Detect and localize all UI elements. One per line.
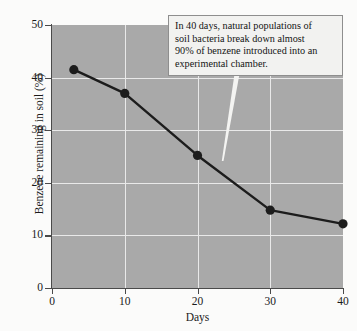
- y-tick-label-0: 0: [13, 282, 43, 294]
- x-tick-mark-0: [52, 288, 53, 294]
- y-tick-mark-10: [45, 235, 52, 236]
- annotation-line-4: experimental chamber.: [175, 58, 336, 71]
- x-tick-label-0: 0: [37, 296, 67, 308]
- x-tick-mark-20: [198, 288, 199, 294]
- y-tick-mark-30: [45, 130, 52, 131]
- annotation-line-3: 90% of benzene introduced into an: [175, 45, 336, 58]
- x-axis-title: Days: [52, 311, 343, 323]
- y-tick-mark-50: [45, 25, 52, 26]
- x-tick-label-20: 20: [183, 296, 213, 308]
- y-axis-line: [51, 24, 52, 289]
- gridline-vertical-10: [125, 25, 126, 288]
- x-tick-label-30: 30: [255, 296, 285, 308]
- annotation-callout: In 40 days, natural populations of soil …: [168, 15, 343, 76]
- x-tick-mark-10: [125, 288, 126, 294]
- annotation-line-2: soil bacteria break down almost: [175, 33, 336, 46]
- y-tick-mark-0: [45, 288, 52, 289]
- x-tick-label-40: 40: [328, 296, 357, 308]
- y-tick-mark-40: [45, 78, 52, 79]
- x-tick-mark-30: [270, 288, 271, 294]
- annotation-line-1: In 40 days, natural populations of: [175, 20, 336, 33]
- x-tick-mark-40: [343, 288, 344, 294]
- y-axis-title: Benzene remaining in soil (%): [33, 29, 45, 259]
- x-tick-label-10: 10: [110, 296, 140, 308]
- benzene-degradation-figure: 50 40 30 20 10 0 0 10 20 30 40 Benzene r…: [0, 0, 357, 331]
- y-tick-mark-20: [45, 183, 52, 184]
